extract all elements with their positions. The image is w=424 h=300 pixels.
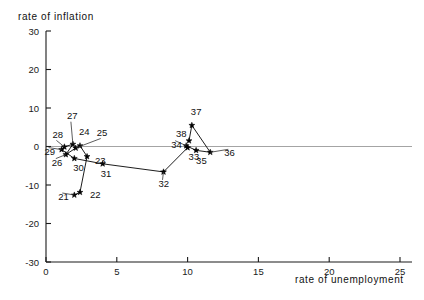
data-marker: [77, 189, 83, 195]
point-label: 30: [73, 162, 84, 173]
x-tick-label: 10: [182, 266, 193, 277]
y-tick-label: 10: [28, 103, 39, 114]
point-label: 29: [45, 146, 56, 157]
point-label: 37: [191, 106, 202, 117]
point-label: 26: [52, 157, 63, 168]
point-label: 32: [159, 178, 170, 189]
point-label: 21: [58, 191, 69, 202]
point-label: 38: [176, 128, 187, 139]
label-leader: [56, 140, 64, 147]
point-label: 36: [224, 147, 235, 158]
point-label: 22: [90, 189, 101, 200]
x-axis-title: rate of unemployment: [295, 274, 404, 285]
label-leader: [71, 122, 73, 145]
point-label: 23: [95, 155, 106, 166]
point-label: 34: [171, 139, 182, 150]
chart-page: 3020100-10-20-300510152025 2122232425262…: [0, 0, 424, 300]
y-tick-label: 30: [28, 26, 39, 37]
y-axis-title: rate of inflation: [18, 11, 94, 22]
point-label: 27: [67, 110, 78, 121]
x-tick-label: 15: [253, 266, 264, 277]
y-tick-label: 0: [34, 141, 39, 152]
point-label: 35: [196, 155, 207, 166]
point-label: 31: [101, 168, 112, 179]
y-tick-label: -20: [25, 218, 39, 229]
scatter-plot: 3020100-10-20-300510152025 2122232425262…: [0, 0, 424, 300]
point-labels-group: 212223242526272829303132333435363738: [45, 106, 235, 202]
data-marker: [71, 155, 77, 161]
x-tick-label: 5: [114, 266, 119, 277]
x-tick-label: 0: [43, 266, 48, 277]
y-tick-label: 20: [28, 64, 39, 75]
y-tick-label: -30: [25, 257, 39, 268]
point-label: 24: [79, 126, 90, 137]
y-tick-label: -10: [25, 180, 39, 191]
point-label: 25: [97, 127, 108, 138]
point-label: 28: [52, 129, 63, 140]
data-marker: [186, 138, 192, 144]
